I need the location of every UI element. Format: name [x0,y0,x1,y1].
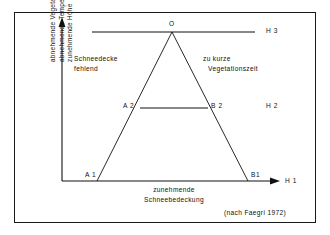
region-label-left: Schneedecke fehlend [74,54,118,73]
y-axis-title-line-1: abnehmende Vegetationszeit [49,0,58,62]
region-label-left-line-1: Schneedecke [74,54,118,64]
region-label-left-line-2: fehlend [74,64,118,74]
figure-root: abnehmende Vegetationszeit abnehmende Te… [0,0,330,235]
source-note: (nach Faegri 1972) [224,208,286,218]
level-label-h3: H 3 [266,26,278,36]
region-label-right-line-1: zu kurze [203,54,258,64]
point-label-b1: B1 [251,170,260,180]
y-axis-title: abnehmende Vegetationszeit abnehmende Te… [49,0,75,62]
y-axis-title-line-3: zunehmende Höhe [66,0,75,62]
x-axis-arrow-label: H 1 [285,176,297,186]
x-axis-title-line-1: zunehmende [129,185,219,195]
y-axis-title-wrapper: abnehmende Vegetationszeit abnehmende Te… [30,28,56,158]
point-label-b2: B 2 [211,101,223,111]
region-label-right: zu kurze Vegetationszeit [203,54,258,73]
x-axis-arrowhead [270,178,280,185]
point-label-o: O [169,19,175,29]
x-axis-title: zunehmende Schneebedeckung [129,185,219,204]
point-label-a2: A 2 [123,101,134,111]
region-label-right-line-2: Vegetationszeit [203,64,258,74]
y-axis-title-line-2: abnehmende Temperatur [58,0,67,62]
x-axis-title-line-2: Schneebedeckung [129,195,219,205]
point-label-a1: A 1 [85,170,96,180]
level-label-h2: H 2 [266,101,278,111]
